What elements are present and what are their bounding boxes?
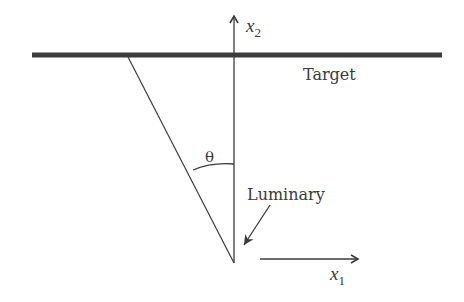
theta-label: θ (205, 148, 214, 166)
x2-axis-label: x2 (245, 15, 261, 40)
luminary-target-diagram: x2 Target θ Luminary x1 (0, 0, 464, 302)
luminary-label: Luminary (247, 185, 325, 204)
luminary-pointer-arrow (244, 205, 270, 245)
ray-line (128, 57, 234, 263)
target-label: Target (303, 65, 356, 84)
x1-axis-label: x1 (329, 263, 345, 288)
